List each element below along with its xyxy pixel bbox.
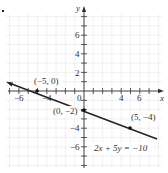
y-tick-label: −4 xyxy=(70,123,80,133)
point-marker xyxy=(35,89,39,93)
y-axis-label: y xyxy=(75,3,80,13)
x-tick-label: −6 xyxy=(14,93,24,103)
x-tick-label: 0 xyxy=(77,93,82,103)
point-label: (5, −4) xyxy=(131,112,156,122)
equation-label: 2x + 5y = −10 xyxy=(94,143,148,153)
x-tick-label: 6 xyxy=(137,93,142,103)
x-tick-label: 4 xyxy=(119,93,124,103)
point-marker xyxy=(82,108,86,112)
y-tick-label: 6 xyxy=(75,30,80,40)
linear-equation-graph: x y −6 −4 0 4 6 6 4 2 −4 −6 (−5, 0) (0, … xyxy=(0,0,168,173)
point-marker xyxy=(128,126,132,130)
x-axis-label: x xyxy=(159,93,164,103)
y-tick-label: 2 xyxy=(75,68,80,78)
y-tick-label: 4 xyxy=(75,49,80,59)
point-label: (−5, 0) xyxy=(34,76,59,86)
y-axis-arrow-icon xyxy=(82,6,86,12)
point-label: (0, −2) xyxy=(53,106,78,116)
y-tick-label: −6 xyxy=(70,142,80,152)
